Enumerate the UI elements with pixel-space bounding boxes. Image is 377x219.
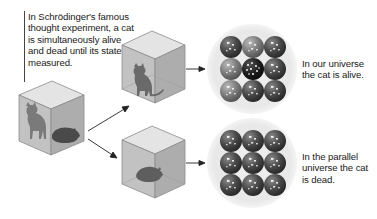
- alive-universe-cluster: [207, 24, 297, 114]
- arrowhead-icon: [199, 161, 205, 166]
- alive-box: [122, 31, 185, 103]
- sphere-grid: [220, 130, 286, 196]
- dead-universe-cluster: [207, 118, 297, 208]
- arrowhead-icon: [122, 106, 129, 112]
- arrow-to-alive: [88, 108, 126, 131]
- sphere-grid: [220, 36, 286, 102]
- arrow-to-dead: [88, 139, 114, 156]
- highlighted-sphere: [242, 58, 264, 80]
- arrowhead-icon: [199, 67, 205, 72]
- dead-box: [122, 126, 185, 198]
- arrowhead-icon: [110, 152, 117, 158]
- source-box: [19, 81, 84, 155]
- diagram-canvas: [0, 0, 377, 219]
